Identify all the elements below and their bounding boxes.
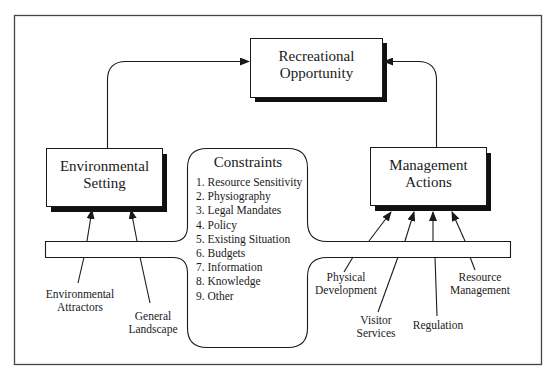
regulation-line1: Regulation [410, 319, 466, 332]
constraint-item: 7. Information [196, 260, 302, 274]
edge-resource-to-mgmt [452, 212, 465, 241]
visitor-services-line1: Visitor [346, 314, 406, 327]
edge-regulation-line-below [435, 257, 437, 316]
edge-visitor-to-mgmt [405, 212, 414, 241]
environmental-attractors-label: Environmental Attractors [36, 288, 124, 314]
constraint-item: 6. Budgets [196, 246, 302, 260]
edge-attractors-to-env [87, 210, 92, 241]
physical-development-line1: Physical [313, 271, 379, 284]
constraint-item: 2. Physiography [196, 189, 302, 203]
constraint-item: 5. Existing Situation [196, 232, 302, 246]
constraint-item: 8. Knowledge [196, 274, 302, 288]
general-landscape-line1: General [122, 310, 184, 323]
edge-env-to-recreational [108, 62, 250, 149]
visitor-services-line2: Services [346, 327, 406, 340]
constraint-item: 3. Legal Mandates [196, 203, 302, 217]
constraint-item: 4. Policy [196, 218, 302, 232]
edge-landscape-line-below [140, 257, 150, 303]
recreational-opportunity-line1: Recreational [250, 48, 383, 65]
edge-attractors-line-below [78, 257, 84, 283]
environmental-attractors-line1: Environmental [36, 288, 124, 301]
general-landscape-label: General Landscape [122, 310, 184, 336]
resource-management-line1: Resource [446, 271, 514, 284]
edge-physical-to-mgmt [369, 212, 391, 241]
constraints-list: 1. Resource Sensitivity 2. Physiography … [196, 175, 302, 303]
diagram-canvas: Recreational Opportunity Environmental S… [0, 0, 553, 373]
constraint-item: 1. Resource Sensitivity [196, 175, 302, 189]
management-actions-line2: Actions [370, 174, 487, 191]
environmental-setting-line1: Environmental [46, 158, 163, 175]
constraint-item: 9. Other [196, 289, 302, 303]
physical-development-line2: Development [313, 284, 379, 297]
recreational-opportunity-label: Recreational Opportunity [250, 48, 383, 83]
constraints-title: Constraints [188, 154, 308, 171]
edge-visitor-line-below [378, 257, 398, 312]
visitor-services-label: Visitor Services [346, 314, 406, 340]
edge-physical-line-below [344, 257, 353, 272]
general-landscape-line2: Landscape [122, 323, 184, 336]
recreational-opportunity-line2: Opportunity [250, 65, 383, 82]
edge-landscape-to-env [131, 210, 137, 241]
edge-mgmt-to-recreational [384, 62, 437, 148]
regulation-label: Regulation [410, 319, 466, 332]
management-actions-line1: Management [370, 157, 487, 174]
environmental-attractors-line2: Attractors [36, 301, 124, 314]
resource-management-label: Resource Management [446, 271, 514, 297]
resource-management-line2: Management [446, 284, 514, 297]
environmental-setting-label: Environmental Setting [46, 158, 163, 193]
environmental-setting-line2: Setting [46, 175, 163, 192]
management-actions-label: Management Actions [370, 157, 487, 192]
edge-resource-line-below [470, 257, 475, 270]
physical-development-label: Physical Development [313, 271, 379, 297]
